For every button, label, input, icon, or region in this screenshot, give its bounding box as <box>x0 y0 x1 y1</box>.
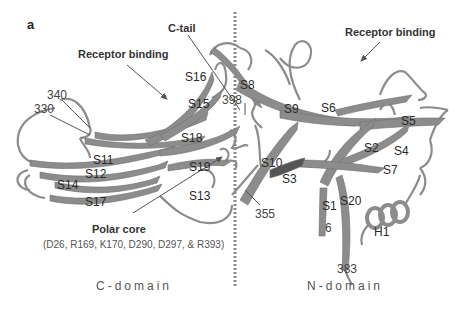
helix-label-h1: H1 <box>374 226 389 238</box>
strand-label-s17: S17 <box>85 196 106 208</box>
strand-label-s8: S8 <box>240 79 255 91</box>
residue-label-383: 383 <box>337 263 357 275</box>
strand-label-s3: S3 <box>282 173 297 185</box>
residue-label-398: 398 <box>222 94 242 106</box>
c-domain-label: C-domain <box>96 280 172 292</box>
strand-label-s20: S20 <box>340 195 361 207</box>
panel-label: a <box>27 18 34 31</box>
residue-label-330: 330 <box>34 103 54 115</box>
receptor-binding-left-label: Receptor binding <box>78 49 168 60</box>
strand-label-s15: S15 <box>188 98 209 110</box>
strand-label-s1: S1 <box>322 200 337 212</box>
strand-label-s19: S19 <box>189 161 210 173</box>
strand-label-s12: S12 <box>85 168 106 180</box>
receptor-binding-right-label: Receptor binding <box>345 27 435 38</box>
strand-label-s10: S10 <box>261 157 282 169</box>
residue-label-340: 340 <box>47 89 67 101</box>
r330-pointer <box>50 115 90 135</box>
strand-label-s6: S6 <box>321 102 336 114</box>
strand-label-s13: S13 <box>189 190 210 202</box>
c-tail-label: C-tail <box>168 23 196 34</box>
strand-label-s14: S14 <box>57 179 78 191</box>
residue-label-355: 355 <box>255 208 275 220</box>
polar-core-title: Polar core <box>92 224 146 235</box>
strand-label-s4: S4 <box>394 145 409 157</box>
polar-core-residues: (D26, R169, K170, D290, D297, & R393) <box>43 240 224 250</box>
strand-label-s18: S18 <box>181 132 202 144</box>
strand-label-s9: S9 <box>284 103 299 115</box>
strand-label-s7: S7 <box>383 164 398 176</box>
receptor-binding-right-arrow <box>361 42 380 61</box>
protein-structure-figure: a C-tail Receptor binding Receptor bindi… <box>0 0 465 309</box>
strand-label-s16: S16 <box>185 71 206 83</box>
strand-label-s11: S11 <box>93 154 113 166</box>
n-domain-label: N-domain <box>307 280 383 292</box>
receptor-binding-left-arrow <box>127 65 167 99</box>
strand-label-s5: S5 <box>401 115 416 127</box>
strand-label-s2: S2 <box>364 142 379 154</box>
residue-label-6: 6 <box>325 222 332 234</box>
